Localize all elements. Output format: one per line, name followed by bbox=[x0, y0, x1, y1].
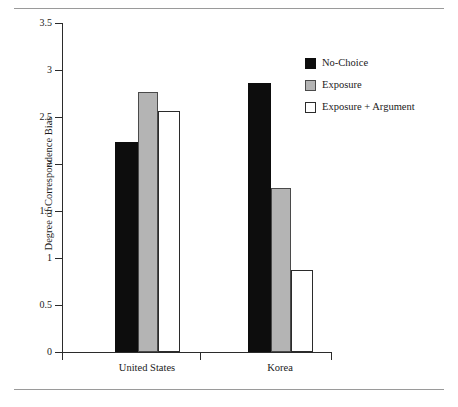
y-tick-mark bbox=[55, 305, 63, 306]
y-tick-label: 0 bbox=[18, 347, 52, 357]
figure-container: Degree of Correspondence Bias 3.532.521.… bbox=[0, 0, 458, 407]
y-tick-mark bbox=[55, 117, 63, 118]
x-axis-line bbox=[62, 352, 331, 353]
legend-item: No-Choice bbox=[305, 52, 455, 74]
legend-label: Exposure bbox=[322, 79, 362, 91]
legend-swatch-icon bbox=[305, 102, 316, 113]
x-tick-mark bbox=[62, 352, 63, 360]
top-horizontal-rule bbox=[14, 8, 444, 9]
bottom-horizontal-rule bbox=[14, 389, 444, 390]
y-axis-line bbox=[62, 23, 63, 353]
x-axis-category-label: United States bbox=[87, 362, 207, 374]
bar bbox=[158, 111, 180, 352]
y-tick-label: 2 bbox=[18, 159, 52, 169]
legend-label: Exposure + Argument bbox=[322, 101, 415, 113]
bar bbox=[115, 142, 138, 352]
x-tick-mark bbox=[331, 352, 332, 360]
y-tick-mark bbox=[55, 70, 63, 71]
y-tick-mark bbox=[55, 23, 63, 24]
y-tick-mark bbox=[55, 258, 63, 259]
y-tick-label: 1.5 bbox=[18, 206, 52, 216]
legend: No-ChoiceExposureExposure + Argument bbox=[305, 52, 455, 118]
legend-swatch-icon bbox=[305, 58, 316, 69]
legend-item: Exposure bbox=[305, 74, 455, 96]
y-tick-mark bbox=[55, 211, 63, 212]
y-tick-label: 3 bbox=[18, 65, 52, 75]
bar bbox=[138, 92, 158, 352]
x-axis-category-label: Korea bbox=[220, 362, 340, 374]
bar bbox=[271, 188, 291, 353]
legend-item: Exposure + Argument bbox=[305, 96, 455, 118]
y-tick-label: 3.5 bbox=[18, 18, 52, 28]
y-tick-label: 2.5 bbox=[18, 112, 52, 122]
y-tick-mark bbox=[55, 164, 63, 165]
y-tick-label: 0.5 bbox=[18, 300, 52, 310]
legend-swatch-icon bbox=[305, 80, 316, 91]
bar bbox=[291, 270, 313, 352]
y-tick-label: 1 bbox=[18, 253, 52, 263]
x-tick-mark bbox=[200, 352, 201, 360]
legend-label: No-Choice bbox=[322, 57, 368, 69]
bar bbox=[248, 83, 271, 352]
